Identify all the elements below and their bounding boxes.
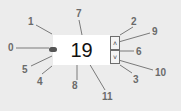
decrement-button[interactable]: ˅	[110, 50, 120, 64]
leader-line-7	[79, 20, 82, 35]
callout-7: 7	[76, 9, 82, 19]
callout-1: 1	[28, 17, 34, 27]
callout-2: 2	[131, 17, 137, 27]
leader-line-4	[42, 66, 52, 74]
leader-line-1	[36, 25, 52, 34]
chevron-down-icon: ˅	[113, 54, 117, 61]
callout-4: 4	[37, 77, 43, 87]
callout-10: 10	[155, 68, 166, 78]
leader-line-3	[120, 65, 132, 73]
increment-button[interactable]: ˄	[110, 36, 120, 50]
leader-line-5	[31, 56, 52, 66]
callout-8: 8	[72, 81, 78, 91]
chevron-up-icon: ˄	[113, 40, 117, 47]
leader-line-2	[120, 27, 133, 35]
callout-5: 5	[22, 65, 28, 75]
callout-0: 0	[8, 43, 14, 53]
spinner-value: 19	[53, 35, 110, 65]
callout-6: 6	[136, 47, 142, 57]
callout-9: 9	[152, 27, 158, 37]
callout-3: 3	[133, 75, 139, 85]
spinner-diagram: 19 ˄ ˅ 0 1 2 3 4 5 6 7 8 9 10 11	[0, 0, 181, 111]
leader-line-10	[115, 59, 153, 70]
drag-handle-icon[interactable]	[49, 47, 57, 52]
callout-11: 11	[102, 92, 113, 102]
